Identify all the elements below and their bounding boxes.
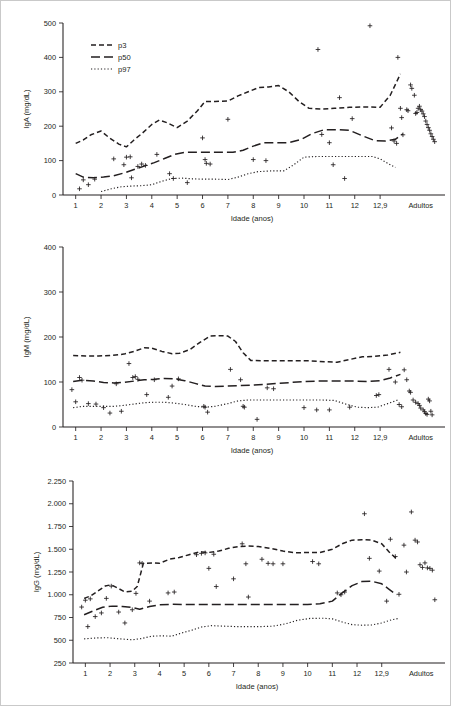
curve-p3 — [76, 74, 401, 147]
scatter-point — [86, 182, 91, 187]
scatter-point — [265, 386, 270, 391]
scatter-points — [79, 510, 437, 629]
scatter-point — [377, 392, 382, 397]
scatter-point — [362, 511, 367, 516]
y-tick-label: 300 — [44, 87, 56, 96]
scatter-points — [70, 361, 435, 421]
x-tick-label: 2 — [108, 669, 112, 678]
scatter-point — [94, 402, 99, 407]
scatter-point — [342, 176, 347, 181]
figure-container: 010020030040050012345678910111212,9Adult… — [0, 0, 451, 706]
x-tick-label: 11 — [326, 433, 334, 442]
scatter-point — [130, 607, 135, 612]
scatter-point — [350, 116, 355, 121]
x-tick-label: 4 — [157, 669, 161, 678]
scatter-point — [77, 187, 82, 192]
scatter-point — [302, 405, 307, 410]
y-tick-label: 1.750 — [48, 522, 67, 531]
scatter-point — [70, 387, 75, 392]
scatter-point — [133, 374, 138, 379]
curve-p97 — [73, 400, 398, 408]
x-tick-label: 2 — [99, 201, 103, 210]
scatter-point — [420, 565, 425, 570]
x-tick-label: 10 — [300, 201, 308, 210]
scatter-point — [240, 541, 245, 546]
y-tick-label: 2.250 — [48, 477, 67, 486]
scatter-point — [231, 577, 236, 582]
scatter-point — [86, 624, 91, 629]
scatter-point — [347, 405, 352, 410]
scatter-point — [108, 411, 113, 416]
scatter-point — [144, 392, 149, 397]
scatter-point — [167, 171, 172, 176]
curve-p3 — [73, 336, 400, 363]
scatter-point — [255, 417, 260, 422]
scatter-point — [319, 132, 324, 137]
x-tick-label: 7 — [226, 201, 230, 210]
x-tick-label: 12,9 — [375, 669, 389, 678]
scatter-point — [310, 559, 315, 564]
curve-p97 — [84, 618, 399, 640]
x-tick-label: 7 — [226, 433, 230, 442]
x-tick-label: 7 — [231, 669, 235, 678]
y-tick-label: 0 — [52, 423, 56, 432]
scatter-point — [147, 599, 152, 604]
scatter-point — [116, 610, 121, 615]
scatter-point — [166, 591, 171, 596]
scatter-point — [316, 562, 321, 567]
x-tick-label: 10 — [300, 433, 308, 442]
scatter-point — [122, 162, 127, 167]
x-tick-label: Adultos — [408, 433, 433, 442]
chart-panel-igg: 2505007501.0001.2501.5001.7502.0002.2501… — [1, 465, 451, 703]
y-axis-title: IgG (mg/dL) — [32, 551, 41, 592]
scatter-point — [368, 23, 373, 28]
x-tick-label: 8 — [251, 201, 255, 210]
scatter-point — [396, 55, 401, 60]
scatter-point — [402, 543, 407, 548]
scatter-point — [251, 157, 256, 162]
scatter-point — [331, 162, 336, 167]
scatter-point — [86, 401, 91, 406]
scatter-point — [155, 152, 160, 157]
scatter-point — [394, 141, 399, 146]
x-tick-label: 1 — [83, 669, 87, 678]
scatter-point — [389, 126, 394, 131]
scatter-point — [130, 375, 135, 380]
curve-p97 — [101, 156, 395, 191]
curve-p50 — [76, 130, 403, 178]
x-tick-label: 1 — [74, 201, 78, 210]
scatter-point — [226, 117, 231, 122]
scatter-point — [208, 162, 213, 167]
y-tick-label: 500 — [44, 19, 56, 28]
scatter-point — [137, 561, 142, 566]
y-axis-title: IgA (mg/dL) — [22, 89, 31, 129]
scatter-point — [228, 367, 233, 372]
scatter-point — [271, 386, 276, 391]
y-tick-label: 100 — [44, 378, 56, 387]
scatter-point — [271, 562, 276, 567]
scatter-point — [393, 380, 398, 385]
scatter-point — [404, 377, 409, 382]
scatter-point — [170, 384, 175, 389]
x-axis-title: Idade (anos) — [236, 682, 279, 691]
x-tick-label: Adultos — [408, 201, 433, 210]
chart-svg-igg: 2505007501.0001.2501.5001.7502.0002.2501… — [1, 465, 451, 703]
y-tick-label: 500 — [54, 636, 66, 645]
scatter-point — [399, 404, 404, 409]
x-axis-title: Idade (anos) — [231, 446, 274, 455]
x-tick-label: 9 — [277, 201, 281, 210]
legend-label-p3: p3 — [118, 41, 126, 50]
x-tick-label: 4 — [150, 433, 154, 442]
x-tick-label: 1 — [74, 433, 78, 442]
scatter-point — [377, 569, 382, 574]
scatter-point — [123, 621, 128, 626]
x-tick-label: 12 — [351, 201, 359, 210]
scatter-point — [134, 591, 139, 596]
x-tick-label: 11 — [328, 669, 336, 678]
scatter-point — [384, 599, 389, 604]
scatter-point — [128, 155, 133, 160]
scatter-point — [99, 611, 104, 616]
scatter-point — [387, 367, 392, 372]
y-tick-label: 1.250 — [48, 568, 67, 577]
x-tick-label: 9 — [281, 669, 285, 678]
